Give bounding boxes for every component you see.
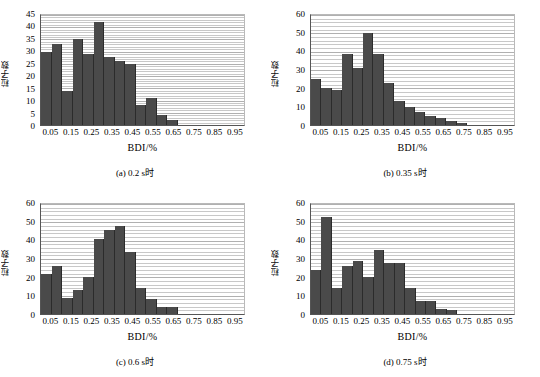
x-tick-label: 0.55 xyxy=(145,127,161,137)
plot-canvas-a xyxy=(40,14,245,126)
x-tick-label: 0.75 xyxy=(186,316,202,326)
y-tick-label: 40 xyxy=(296,236,305,245)
histogram-bar xyxy=(446,121,456,125)
histogram-bar xyxy=(321,217,331,314)
y-tick-label: 0 xyxy=(301,122,306,131)
x-axis-label-a: BDI/% xyxy=(40,142,245,153)
plot-area-d: 粒子数 0102030405060 0.050.150.250.350.450.… xyxy=(270,189,540,334)
histogram-bar xyxy=(384,263,394,314)
histogram-bar xyxy=(353,261,363,314)
chart-panel-b: 粒子数 0102030405060 0.050.150.250.350.450.… xyxy=(270,0,540,188)
x-tick-label: 0.45 xyxy=(394,316,410,326)
y-tick-label: 20 xyxy=(296,273,305,282)
histogram-bar xyxy=(52,266,63,314)
x-tick-label: 0.85 xyxy=(206,127,222,137)
histogram-bar xyxy=(125,252,136,314)
x-tick-label: 0.05 xyxy=(42,316,58,326)
bar-series-d xyxy=(311,204,514,314)
y-tick-label: 0 xyxy=(301,311,306,320)
x-axis-label-d: BDI/% xyxy=(310,331,515,342)
x-axis-ticks-c: 0.050.150.250.350.450.550.650.750.850.95 xyxy=(40,316,245,328)
y-tick-label: 60 xyxy=(296,10,305,19)
x-axis-label-b: BDI/% xyxy=(310,142,515,153)
bar-series-c xyxy=(41,204,244,314)
histogram-bar xyxy=(373,54,383,126)
chart-panel-d: 粒子数 0102030405060 0.050.150.250.350.450.… xyxy=(270,189,540,377)
histogram-bar xyxy=(342,266,352,314)
x-tick-label: 0.95 xyxy=(497,127,513,137)
y-axis-label-a: 粒子数 xyxy=(2,44,16,104)
x-tick-label: 0.25 xyxy=(353,127,369,137)
histogram-bar xyxy=(73,39,84,125)
histogram-bar xyxy=(104,230,115,314)
histogram-bar xyxy=(436,309,446,315)
y-tick-label: 45 xyxy=(26,10,35,19)
histogram-bar xyxy=(157,115,168,125)
y-tick-label: 10 xyxy=(26,292,35,301)
plot-area-a: 粒子数 051015202530354045 0.050.150.250.350… xyxy=(0,0,270,145)
plot-area-b: 粒子数 0102030405060 0.050.150.250.350.450.… xyxy=(270,0,540,145)
y-tick-label: 25 xyxy=(26,59,35,68)
y-tick-label: 20 xyxy=(26,72,35,81)
histogram-bar xyxy=(157,307,168,314)
histogram-bar xyxy=(94,22,105,125)
gridline xyxy=(311,125,514,126)
histogram-bar xyxy=(52,44,63,125)
panel-caption-c: (c) 0.6 s时 xyxy=(0,355,270,368)
histogram-bar xyxy=(41,52,52,125)
x-tick-label: 0.15 xyxy=(63,316,79,326)
histogram-bar xyxy=(447,310,457,314)
histogram-bar xyxy=(73,290,84,314)
y-tick-label: 30 xyxy=(26,47,35,56)
x-axis-ticks-a: 0.050.150.250.350.450.550.650.750.850.95 xyxy=(40,127,245,139)
x-tick-label: 0.35 xyxy=(374,316,390,326)
histogram-bar xyxy=(146,299,157,314)
y-tick-label: 0 xyxy=(31,311,36,320)
bar-series-a xyxy=(41,15,244,125)
histogram-bar xyxy=(83,277,94,314)
y-tick-label: 0 xyxy=(31,122,36,131)
histogram-bar xyxy=(41,274,52,314)
histogram-bar xyxy=(384,83,394,125)
y-tick-label: 10 xyxy=(26,97,35,106)
x-axis-label-c: BDI/% xyxy=(40,331,245,342)
y-tick-label: 30 xyxy=(296,255,305,264)
y-tick-label: 60 xyxy=(26,199,35,208)
y-tick-label: 50 xyxy=(296,28,305,37)
histogram-bar xyxy=(436,118,446,125)
histogram-bar xyxy=(136,105,147,125)
histogram-bar xyxy=(94,239,105,314)
histogram-bar xyxy=(457,123,467,125)
y-tick-label: 50 xyxy=(296,217,305,226)
y-axis-ticks-a: 051015202530354045 xyxy=(16,14,38,126)
histogram-bar xyxy=(394,101,404,125)
histogram-bar xyxy=(115,61,126,125)
x-tick-label: 0.25 xyxy=(353,316,369,326)
gridline xyxy=(311,314,514,315)
histogram-bar xyxy=(395,263,405,314)
x-tick-label: 0.05 xyxy=(42,127,58,137)
x-tick-label: 0.95 xyxy=(227,127,243,137)
plot-canvas-d xyxy=(310,203,515,315)
plot-canvas-c xyxy=(40,203,245,315)
y-tick-label: 50 xyxy=(26,217,35,226)
x-tick-label: 0.05 xyxy=(312,127,328,137)
y-axis-label-d: 粒子数 xyxy=(272,233,286,293)
gridline xyxy=(41,314,244,315)
figure-multi-panel-histogram: 粒子数 051015202530354045 0.050.150.250.350… xyxy=(0,0,540,377)
x-tick-label: 0.75 xyxy=(456,127,472,137)
histogram-bar xyxy=(115,226,126,314)
histogram-bar xyxy=(353,68,363,125)
x-tick-label: 0.45 xyxy=(124,316,140,326)
y-axis-ticks-c: 0102030405060 xyxy=(16,203,38,315)
x-tick-label: 0.35 xyxy=(374,127,390,137)
x-tick-label: 0.25 xyxy=(83,127,99,137)
panel-caption-b: (b) 0.35 s时 xyxy=(270,166,540,179)
y-axis-label-c: 粒子数 xyxy=(2,233,16,293)
histogram-bar xyxy=(62,91,73,125)
histogram-bar xyxy=(321,88,331,125)
histogram-bar xyxy=(374,250,384,314)
histogram-bar xyxy=(167,307,178,314)
x-axis-ticks-b: 0.050.150.250.350.450.550.650.750.850.95 xyxy=(310,127,515,139)
x-tick-label: 0.05 xyxy=(312,316,328,326)
